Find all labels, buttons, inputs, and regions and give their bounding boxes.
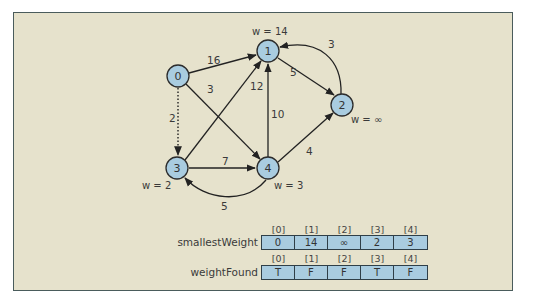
- array-cell: T: [262, 266, 295, 279]
- index-label: [2]: [328, 253, 361, 264]
- array-cell: F: [328, 266, 361, 279]
- array-cell: 0: [262, 236, 295, 249]
- weight-label-node-3: w = 2: [142, 180, 171, 191]
- weight-label-node-2: w = ∞: [351, 114, 382, 125]
- edge-0-4: [186, 84, 260, 159]
- array-cell: T: [361, 266, 394, 279]
- array-cell: F: [394, 266, 427, 279]
- edge-weight-2-1: 3: [328, 38, 335, 50]
- array-cell: ∞: [328, 236, 361, 249]
- weight-found-cells: T F F T F: [261, 265, 428, 280]
- index-label: [3]: [361, 253, 394, 264]
- edge-weight-3-1: 12: [250, 80, 263, 92]
- smallest-weight-cells: 0 14 ∞ 2 3: [261, 235, 428, 250]
- weight-label-node-1: w = 14: [252, 26, 288, 37]
- edge-4-3: [185, 178, 266, 197]
- smallest-weight-label: smallestWeight: [150, 236, 258, 248]
- node-1: 1: [257, 40, 279, 62]
- edge-weight-4-2: 4: [306, 145, 313, 157]
- array-cell: F: [295, 266, 328, 279]
- index-label: [4]: [394, 224, 427, 235]
- array-cell: 2: [361, 236, 394, 249]
- index-label: [3]: [361, 224, 394, 235]
- svg-text:1: 1: [265, 45, 272, 58]
- edge-weight-4-3: 5: [221, 200, 228, 212]
- index-label: [2]: [328, 224, 361, 235]
- edge-weight-4-1: 10: [271, 108, 284, 120]
- edge-0-1: [189, 55, 256, 73]
- edge-weight-0-1: 16: [207, 54, 221, 66]
- array-cell: 14: [295, 236, 328, 249]
- edge-weight-1-2: 5: [290, 66, 297, 78]
- svg-text:4: 4: [265, 162, 272, 175]
- svg-text:0: 0: [175, 70, 182, 83]
- weight-found-indices: [0] [1] [2] [3] [4]: [262, 253, 427, 264]
- index-label: [0]: [262, 253, 295, 264]
- edge-weight-0-4: 3: [207, 83, 214, 95]
- index-label: [4]: [394, 253, 427, 264]
- edge-3-1: [185, 61, 261, 160]
- svg-text:3: 3: [174, 162, 181, 175]
- node-3: 3: [166, 157, 188, 179]
- node-0: 0: [167, 65, 189, 87]
- array-cell: 3: [394, 236, 427, 249]
- edge-weight-0-3: 2: [169, 112, 176, 124]
- svg-text:2: 2: [339, 99, 346, 112]
- smallest-weight-indices: [0] [1] [2] [3] [4]: [262, 224, 427, 235]
- node-4: 4: [257, 157, 279, 179]
- index-label: [1]: [295, 224, 328, 235]
- weight-found-label: weightFound: [150, 266, 258, 278]
- index-label: [1]: [295, 253, 328, 264]
- edge-weight-3-4: 7: [222, 155, 229, 167]
- node-2: 2: [331, 94, 353, 116]
- edge-1-2: [278, 58, 334, 95]
- index-label: [0]: [262, 224, 295, 235]
- weight-label-node-4: w = 3: [274, 180, 303, 191]
